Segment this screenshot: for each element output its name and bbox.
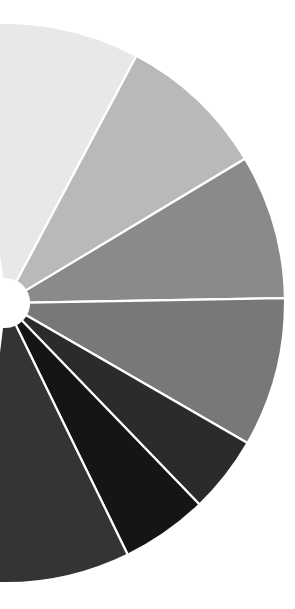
donut-chart xyxy=(0,0,295,609)
chart-container xyxy=(0,0,295,609)
